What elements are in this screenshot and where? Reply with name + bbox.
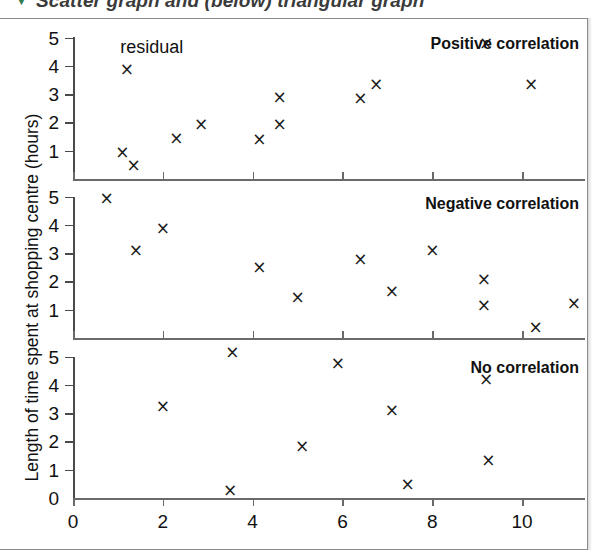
data-point-marker: × [353,251,367,268]
x-tick [432,498,434,506]
x-tick [73,331,75,338]
x-tick [522,331,524,338]
y-tick-label: 1 [39,461,59,480]
y-tick-label: 1 [39,301,59,320]
y-tick-label: 1 [39,142,59,161]
data-point-marker: × [385,402,399,419]
data-point-marker: × [156,398,170,415]
x-axis-line [73,498,585,500]
y-tick [65,225,73,227]
x-tick [253,172,255,179]
y-tick [65,441,73,443]
y-tick-label: 2 [39,272,59,291]
x-axis-line [73,338,585,340]
data-point-marker: × [385,283,399,300]
panel-title: Negative correlation [425,195,579,213]
x-tick [342,498,344,506]
data-point-marker: × [290,288,304,305]
data-point-marker: × [223,481,237,498]
chart-frame: Length of time spent at shopping centre … [0,18,588,550]
x-tick [253,498,255,506]
x-tick [522,172,524,179]
y-tick [65,66,73,68]
data-point-marker: × [400,476,414,493]
scatter-panel: 12345Negative correlation×××××××××××× [0,197,609,378]
x-tick-label: 10 [510,512,534,531]
y-tick [65,310,73,312]
x-tick [342,331,344,338]
x-tick [163,498,165,506]
figure-caption: ▼Scatter graph and (below) triangular gr… [0,0,609,18]
data-point-marker: × [272,88,286,105]
data-point-marker: × [567,294,581,311]
y-tick-label: 3 [39,244,59,263]
x-tick-label: 6 [330,512,354,531]
y-tick-label: 3 [39,85,59,104]
y-tick-label: 0 [39,489,59,508]
data-point-marker: × [477,270,491,287]
data-point-marker: × [369,76,383,93]
y-tick-label: 3 [39,404,59,423]
y-tick [65,253,73,255]
plot-area: 0123450246810No correlation××××××××× [73,357,585,498]
x-axis-line [73,179,585,181]
data-point-marker: × [479,35,493,52]
y-tick-label: 2 [39,432,59,451]
data-point-marker: × [272,115,286,132]
caption-line: ▼Scatter graph and (below) triangular gr… [14,0,424,12]
panel-title: Positive correlation [431,35,580,53]
x-tick-label: 8 [420,512,444,531]
y-tick-label: 5 [39,29,59,48]
x-tick-label: 0 [61,512,85,531]
data-point-marker: × [156,219,170,236]
x-tick-label: 2 [151,512,175,531]
data-point-marker: × [127,156,141,173]
data-point-marker: × [295,438,309,455]
x-tick-label: 4 [241,512,265,531]
x-tick [253,331,255,338]
data-point-marker: × [353,90,367,107]
y-tick-label: 4 [39,216,59,235]
plot-area: 12345Positive correlationresidual×××××××… [73,37,585,179]
data-point-marker: × [169,129,183,146]
y-tick [65,122,73,124]
data-point-marker: × [331,354,345,371]
y-tick [65,197,73,199]
x-tick [73,172,75,179]
plot-area: 12345Negative correlation×××××××××××× [73,197,585,338]
y-tick [65,281,73,283]
data-point-marker: × [425,242,439,259]
y-tick-label: 4 [39,57,59,76]
caption-label: Scatter graph and (below) triangular gra… [36,0,424,11]
y-axis-line [73,357,75,498]
y-tick-label: 2 [39,113,59,132]
scatter-panel: 12345Positive correlationresidual×××××××… [0,37,609,219]
y-tick-label: 4 [39,376,59,395]
y-tick [65,357,73,359]
figure-root: ▼Scatter graph and (below) triangular gr… [0,0,609,550]
data-point-marker: × [252,131,266,148]
data-point-marker: × [252,259,266,276]
data-point-marker: × [477,297,491,314]
y-axis-line [73,37,75,179]
y-tick [65,38,73,40]
data-point-marker: × [120,60,134,77]
y-tick [65,385,73,387]
y-tick [65,470,73,472]
data-point-marker: × [524,76,538,93]
y-tick [65,413,73,415]
scatter-panel: 0123450246810No correlation××××××××× [0,357,609,538]
data-point-marker: × [100,189,114,206]
y-tick-label: 5 [39,188,59,207]
data-point-marker: × [194,115,208,132]
x-tick [163,331,165,338]
y-tick [65,151,73,153]
data-point-marker: × [129,242,143,259]
data-point-marker: × [225,344,239,361]
x-tick [522,498,524,506]
annotation-label: residual [120,37,183,58]
x-tick [342,172,344,179]
data-point-marker: × [528,318,542,335]
triangle-down-icon: ▼ [14,0,29,8]
x-tick [432,172,434,179]
